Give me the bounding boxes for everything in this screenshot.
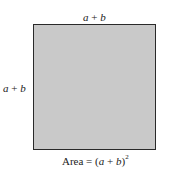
square-area-figure: [33, 24, 156, 150]
left-side-label: a + b: [3, 83, 26, 94]
variable-b: b: [100, 11, 106, 23]
exponent: 2: [125, 153, 129, 161]
plus-operator: +: [104, 155, 116, 167]
caption-prefix: Area = (: [62, 155, 99, 167]
plus-operator: +: [89, 11, 101, 23]
plus-operator: +: [9, 82, 21, 94]
variable-b: b: [20, 82, 26, 94]
top-side-label: a + b: [83, 12, 106, 23]
area-caption: Area = (a + b)2: [62, 156, 129, 167]
